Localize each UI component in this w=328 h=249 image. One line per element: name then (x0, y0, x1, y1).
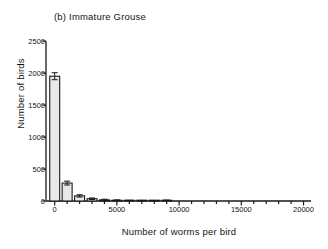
plot-area (0, 0, 328, 249)
chart-figure: (b) Immature Grouse Number of birds Numb… (0, 0, 328, 249)
histogram-bar (50, 76, 60, 201)
histogram-bar (62, 183, 72, 201)
